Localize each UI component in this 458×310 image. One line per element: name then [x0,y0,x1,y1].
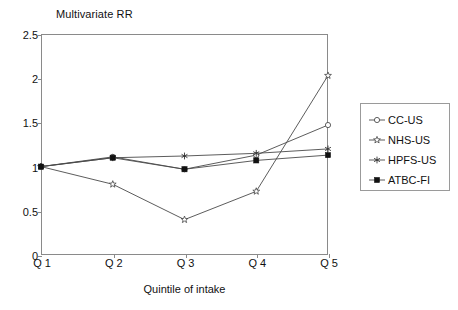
legend-item-cc-us[interactable]: CC-US [361,110,449,130]
chart-figure: Multivariate RR 00.511.522.5Q 1Q 2Q 3Q 4… [0,0,458,310]
data-point-open-star [325,72,332,79]
data-point-open-star [181,216,188,223]
data-point-filled-square [374,177,379,182]
x-tick-mark [329,254,330,258]
data-point-filled-square [182,167,187,172]
x-tick-label: Q 4 [248,257,266,269]
dot-plus-icon [368,113,386,127]
series-line-cc-us [41,125,328,169]
data-point-open-star [253,188,260,195]
x-axis-title: Quintile of intake [41,283,328,295]
asterisk-icon [368,153,386,167]
legend-label: ATBC-FI [388,174,430,186]
legend-label: CC-US [388,114,423,126]
legend-label: HPFS-US [388,154,436,166]
y-tick-label: 2.5 [23,29,38,41]
data-point-filled-square [254,158,259,163]
x-tick-label: Q 2 [105,257,123,269]
x-tick-label: Q 3 [177,257,195,269]
chart-legend: CC-USNHS-USHPFS-USATBC-FI [360,103,450,191]
data-point-dot-plus [325,122,330,127]
data-point-dot-plus [374,117,379,122]
series-line-nhs-us [41,76,328,220]
legend-label: NHS-US [388,134,430,146]
y-tick-label: 1.5 [23,117,38,129]
data-point-filled-square [325,153,330,158]
x-tick-label: Q 1 [33,257,51,269]
legend-item-hpfs-us[interactable]: HPFS-US [361,150,449,170]
chart-title: Multivariate RR [56,8,133,20]
data-point-open-star [374,136,381,143]
data-point-filled-square [110,155,115,160]
data-point-filled-square [38,164,43,169]
open-star-icon [368,133,386,147]
series-layer [41,34,328,255]
filled-square-icon [368,173,386,187]
data-point-open-star [109,181,116,188]
legend-item-nhs-us[interactable]: NHS-US [361,130,449,150]
x-tick-label: Q 5 [320,257,338,269]
y-tick-label: 0.5 [23,206,38,218]
legend-item-atbc-fi[interactable]: ATBC-FI [361,170,449,190]
